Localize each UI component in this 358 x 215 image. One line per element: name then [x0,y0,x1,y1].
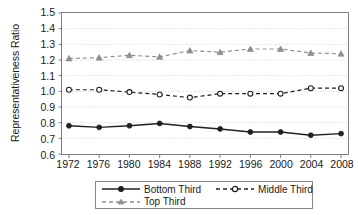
data-point [97,87,102,92]
legend-entry-top-third[interactable]: Top Third [101,196,186,209]
y-axis-tick-labels: 1.51.41.31.21.11.00.90.80.70.6 [22,0,55,215]
plot-area [61,12,349,155]
x-tick-label: 1980 [117,158,140,170]
legend-label-middle-third: Middle Third [258,184,313,195]
data-point [248,130,253,135]
series-middle-third [66,86,343,100]
data-point [218,126,223,131]
data-point [127,90,132,95]
data-point [248,91,253,96]
data-point [218,91,223,96]
legend-label-top-third: Top Third [144,196,186,207]
x-tick-label: 2004 [300,158,323,170]
data-point [278,91,283,96]
chart-figure: Representativeness Ratio 1.51.41.31.21.1… [0,0,358,215]
data-point [187,124,192,129]
series-line [69,49,341,58]
data-point [187,48,193,54]
chart-legend: Bottom Third Middle Third Top Third [95,181,313,209]
x-tick-label: 1984 [148,158,171,170]
y-tick-label: 0.9 [22,101,55,113]
x-tick-label: 1996 [239,158,262,170]
legend-entry-middle-third[interactable]: Middle Third [215,183,313,196]
x-tick-label: 1972 [56,158,79,170]
y-tick-label: 0.6 [22,149,55,161]
series-line [69,123,341,135]
y-tick-label: 1.2 [22,54,55,66]
data-point [157,121,162,126]
x-tick-label: 1976 [87,158,110,170]
data-point [157,92,162,97]
data-point [66,123,71,128]
y-tick-label: 1.3 [22,38,55,50]
x-axis-tick-labels: 1972197619801984198819921996200020042008 [61,158,349,174]
data-point [339,131,344,136]
y-tick-label: 0.8 [22,117,55,129]
series-line [69,88,341,97]
legend-label-bottom-third: Bottom Third [144,184,201,195]
x-tick-label: 2000 [269,158,292,170]
legend-row-2: Top Third [101,196,308,209]
series-bottom-third [66,121,343,138]
data-series-layer [62,13,348,154]
y-tick-label: 0.7 [22,133,55,145]
data-point [278,130,283,135]
legend-sample-top-third [101,196,141,208]
y-tick-label: 1.4 [22,22,55,34]
x-tick-label: 1992 [209,158,232,170]
data-point [308,86,313,91]
x-tick-label: 1988 [178,158,201,170]
x-tick-label: 2008 [330,158,353,170]
data-point [187,95,192,100]
data-point [127,123,132,128]
legend-sample-bottom-third [101,183,141,195]
y-tick-label: 1.0 [22,85,55,97]
data-point [66,87,71,92]
data-point [308,133,313,138]
y-tick-label: 1.5 [22,6,55,18]
legend-sample-middle-third [215,183,255,195]
data-point [339,86,344,91]
legend-entry-bottom-third[interactable]: Bottom Third [101,183,201,196]
data-point [97,125,102,130]
series-top-third [66,46,344,61]
legend-row-1: Bottom Third Middle Third [101,183,308,196]
y-tick-label: 1.1 [22,70,55,82]
